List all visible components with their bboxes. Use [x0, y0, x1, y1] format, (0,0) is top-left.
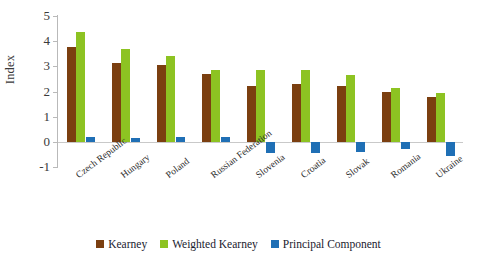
bar-principal-component	[356, 142, 365, 152]
legend-swatch-icon	[160, 240, 168, 248]
bar-group	[283, 16, 328, 167]
bar-kearney	[112, 63, 121, 142]
bar-principal-component	[401, 142, 410, 150]
bar-weighted-kearney	[346, 75, 355, 142]
legend-item: Kearney	[96, 238, 147, 250]
bar-principal-component	[221, 137, 230, 142]
y-tick-label: -1	[0, 160, 50, 173]
bar-kearney	[247, 86, 256, 141]
bar-weighted-kearney	[211, 70, 220, 142]
bar-principal-component	[176, 137, 185, 142]
bar-group	[418, 16, 463, 167]
y-tick-mark	[53, 41, 57, 42]
bar-weighted-kearney	[166, 56, 175, 142]
bar-kearney	[427, 97, 436, 142]
y-tick-label: 4	[0, 34, 50, 47]
bar-group	[193, 16, 238, 167]
legend-item: Principal Component	[271, 238, 381, 250]
chart-legend: KearneyWeighted KearneyPrincipal Compone…	[0, 238, 477, 250]
bar-principal-component	[86, 137, 95, 142]
legend-swatch-icon	[96, 240, 104, 248]
bar-weighted-kearney	[301, 70, 310, 142]
legend-label: Kearney	[108, 238, 147, 250]
bar-kearney	[337, 86, 346, 141]
legend-label: Principal Component	[283, 238, 381, 250]
bar-weighted-kearney	[76, 32, 85, 141]
y-tick-label: 5	[0, 9, 50, 22]
y-tick-mark	[53, 92, 57, 93]
y-tick-mark	[53, 66, 57, 67]
bar-group	[328, 16, 373, 167]
bar-weighted-kearney	[121, 49, 130, 142]
bar-weighted-kearney	[436, 93, 445, 142]
bar-principal-component	[266, 142, 275, 153]
bar-principal-component	[131, 138, 140, 142]
y-tick-label: 3	[0, 59, 50, 72]
bar-kearney	[202, 74, 211, 142]
y-tick-label: 2	[0, 85, 50, 98]
bar-chart: Index 543210-1 Czech RepublicHungaryPola…	[0, 0, 477, 271]
y-tick-label: 1	[0, 110, 50, 123]
bar-kearney	[382, 92, 391, 142]
y-tick-mark	[53, 142, 57, 143]
y-tick-label: 0	[0, 135, 50, 148]
y-tick-mark	[53, 117, 57, 118]
bar-weighted-kearney	[391, 88, 400, 142]
bar-group	[58, 16, 103, 167]
bar-principal-component	[311, 142, 320, 153]
bar-kearney	[292, 84, 301, 142]
bar-kearney	[157, 65, 166, 142]
legend-item: Weighted Kearney	[160, 238, 258, 250]
y-tick-mark	[53, 16, 57, 17]
bar-group	[148, 16, 193, 167]
legend-label: Weighted Kearney	[172, 238, 258, 250]
legend-swatch-icon	[271, 240, 279, 248]
bar-kearney	[67, 47, 76, 141]
bar-group	[373, 16, 418, 167]
y-tick-mark	[53, 167, 57, 168]
bar-principal-component	[446, 142, 455, 156]
